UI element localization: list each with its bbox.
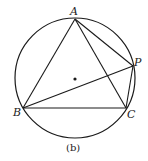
geometry-figure: A B C P (b) xyxy=(0,0,148,161)
label-a: A xyxy=(69,5,78,18)
segment-ab xyxy=(23,19,75,108)
center-dot xyxy=(73,77,76,80)
segment-ca xyxy=(75,19,126,108)
figure-caption: (b) xyxy=(66,142,80,153)
label-b: B xyxy=(12,106,21,119)
label-c: C xyxy=(127,108,136,121)
segment-bp xyxy=(23,66,133,108)
label-p: P xyxy=(133,56,142,69)
